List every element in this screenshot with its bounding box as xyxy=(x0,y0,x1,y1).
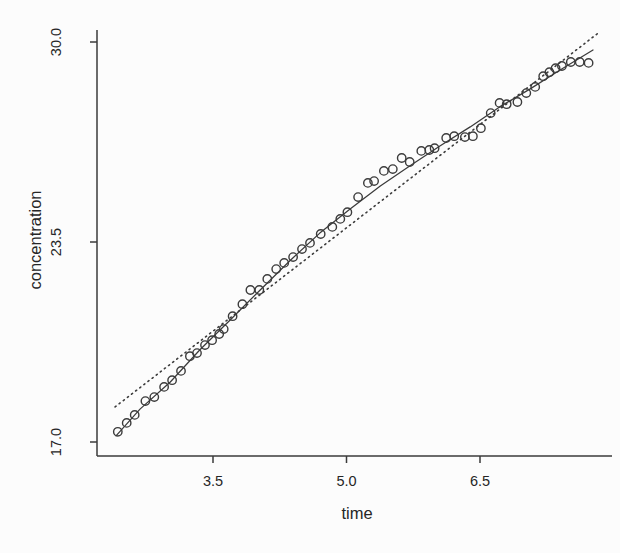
data-points xyxy=(114,58,593,436)
figure-page: 3.55.06.5 17.023.530.0 time concentratio… xyxy=(0,0,620,553)
data-point xyxy=(406,158,414,166)
data-point xyxy=(389,165,397,173)
data-point xyxy=(417,147,425,155)
x-axis-ticks: 3.55.06.5 xyxy=(203,456,490,489)
data-point xyxy=(343,208,351,216)
x-tick-label: 6.5 xyxy=(470,473,490,489)
data-point xyxy=(442,134,450,142)
x-tick-label: 3.5 xyxy=(203,473,223,489)
data-point xyxy=(354,193,362,201)
y-tick-label: 17.0 xyxy=(48,428,64,456)
data-point xyxy=(317,230,325,238)
data-point xyxy=(450,132,458,140)
y-axis-label: concentration xyxy=(26,190,44,289)
data-point xyxy=(272,265,280,273)
data-point xyxy=(255,286,263,294)
scatter-plot: 3.55.06.5 17.023.530.0 time concentratio… xyxy=(0,0,620,553)
y-tick-label: 23.5 xyxy=(48,228,64,256)
y-tick-label: 30.0 xyxy=(48,28,64,56)
data-point xyxy=(469,132,477,140)
data-point xyxy=(228,312,236,320)
data-point xyxy=(246,286,254,294)
x-tick-label: 5.0 xyxy=(336,473,356,489)
data-point xyxy=(263,275,271,283)
data-point xyxy=(576,58,584,66)
x-axis-label: time xyxy=(341,504,372,522)
smooth-fit-path xyxy=(116,50,593,436)
data-point xyxy=(584,59,592,67)
data-point xyxy=(114,428,122,436)
data-point xyxy=(380,167,388,175)
data-point xyxy=(477,124,485,132)
y-axis-ticks: 17.023.530.0 xyxy=(48,28,97,456)
data-point xyxy=(513,98,521,106)
data-point xyxy=(123,419,131,427)
data-point xyxy=(398,154,406,162)
smooth-fit-line xyxy=(116,50,593,436)
